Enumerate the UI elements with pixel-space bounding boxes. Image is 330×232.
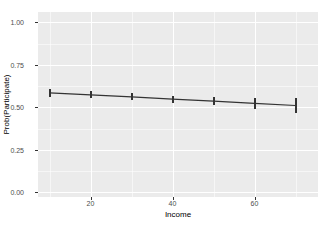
y-axis-tick-mark [35,192,38,193]
y-axis-tick-label: 0.25 [10,146,24,153]
error-bar [254,98,256,109]
y-axis-tick-label: 0.50 [10,104,24,111]
x-axis-tick-mark [173,197,174,200]
y-axis-tick-mark [35,107,38,108]
data-layer [38,12,318,197]
trend-line [38,12,318,197]
plot-panel [38,12,318,197]
y-axis-tick-label: 0.75 [10,61,24,68]
x-axis-tick-mark [91,197,92,200]
chart-container: 0.000.250.500.751.00204060 Income Prob(P… [0,0,330,232]
y-axis-tick-mark [35,150,38,151]
x-axis-tick-label: 60 [251,200,259,207]
x-axis-tick-mark [255,197,256,200]
error-bar [49,89,51,97]
y-axis-tick-label: 1.00 [10,19,24,26]
error-bar [90,91,92,98]
y-axis-tick-mark [35,65,38,66]
x-axis-tick-label: 40 [169,200,177,207]
error-bar [213,97,215,106]
y-axis-title: Prob(Participate) [2,12,12,197]
y-axis-tick-mark [35,22,38,23]
error-bar [172,96,174,103]
y-axis-tick-label: 0.00 [10,189,24,196]
x-axis-title: Income [38,210,318,219]
error-bar [131,93,133,100]
x-axis-tick-label: 20 [87,200,95,207]
error-bar [295,98,297,113]
